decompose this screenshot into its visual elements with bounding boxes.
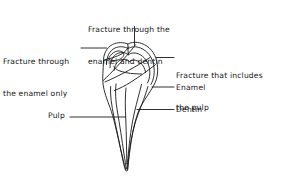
label-pulp: Pulp (48, 111, 65, 122)
pulp-chamber-and-canal-left (116, 84, 127, 169)
label-fracture-enamel-dentin: Fracture through the enamel and dentin (88, 4, 170, 88)
label-fracture-enamel-only: Fracture through the enamel only (3, 36, 69, 120)
dentin-boundary-left (110, 87, 125, 171)
label-fracture-includes-pulp-line1: Fracture that includes (176, 71, 263, 82)
dental-fracture-figure: Fracture through the enamel and dentin F… (0, 0, 286, 178)
label-fracture-enamel-only-line2: the enamel only (3, 89, 69, 100)
label-dentin: Dentin (176, 105, 202, 116)
label-fracture-enamel-dentin-line1: Fracture through the (88, 25, 170, 36)
root-canal-line (125, 88, 127, 164)
label-fracture-enamel-dentin-line2: enamel and dentin (88, 57, 170, 68)
label-enamel: Enamel (176, 83, 206, 94)
label-fracture-enamel-only-line1: Fracture through (3, 57, 69, 68)
